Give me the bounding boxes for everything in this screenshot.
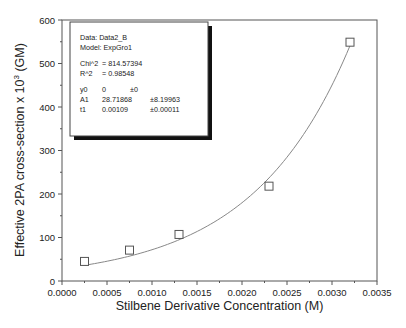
x-tick-label: 0.0015	[182, 287, 211, 298]
legend-box: Data: Data2_BModel: ExpGro1Chi^2= 814.57…	[70, 22, 212, 140]
data-point	[346, 38, 354, 46]
y-tick-label: 300	[39, 145, 55, 156]
x-tick-label: 0.0030	[317, 287, 346, 298]
x-tick-label: 0.0010	[137, 287, 166, 298]
x-tick-label: 0.0000	[47, 287, 76, 298]
legend-text: ±8.19963	[150, 95, 180, 104]
chart: 0.00000.00050.00100.00150.00200.00250.00…	[0, 0, 406, 328]
legend-text: = 814.57394	[102, 59, 142, 68]
y-axis-title: Effective 2PA cross-section x 103 (GM)	[12, 43, 27, 257]
data-point	[265, 182, 273, 190]
x-tick-label: 0.0035	[362, 287, 391, 298]
x-axis: 0.00000.00050.00100.00150.00200.00250.00…	[47, 281, 391, 298]
legend-text: A1	[80, 95, 89, 104]
y-tick-label: 100	[39, 232, 55, 243]
x-tick-label: 0.0005	[92, 287, 121, 298]
legend-text: 0	[102, 85, 106, 94]
data-point	[126, 246, 134, 254]
data-point	[81, 257, 89, 265]
y-tick-label: 600	[39, 15, 55, 26]
legend-text: ±0.00011	[150, 105, 179, 114]
y-axis: 0100200300400500600	[39, 15, 62, 287]
legend-text: = 0.98548	[102, 69, 134, 78]
legend-text: Chi^2	[80, 59, 98, 68]
legend-text: y0	[80, 85, 88, 94]
y-tick-label: 500	[39, 58, 55, 69]
legend-text: ±0	[130, 85, 138, 94]
legend-text: t1	[80, 105, 86, 114]
data-point	[175, 230, 183, 238]
legend-text: R^2	[80, 69, 93, 78]
y-tick-label: 400	[39, 102, 55, 113]
legend-text: Data: Data2_B	[80, 33, 127, 42]
legend-text: 28.71868	[102, 95, 132, 104]
x-axis-title: Stilbene Derivative Concentration (M)	[116, 299, 324, 313]
legend-text: Model: ExpGro1	[80, 43, 132, 52]
y-tick-label: 0	[50, 276, 55, 287]
x-tick-label: 0.0025	[272, 287, 301, 298]
y-tick-label: 200	[39, 189, 55, 200]
x-tick-label: 0.0020	[227, 287, 256, 298]
legend-text: 0.00109	[102, 105, 128, 114]
